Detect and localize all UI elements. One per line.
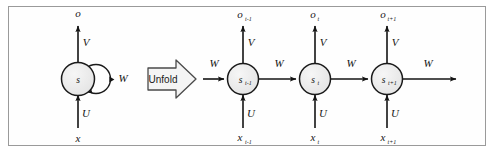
timestep-0-weight-u-label: U (247, 107, 256, 119)
timestep-1-input-subscript: t (318, 139, 320, 145)
timestep-0-state-node-subscript: t-1 (245, 80, 252, 86)
timestep-2-state-node (372, 64, 403, 95)
unfolded-incoming-weight-label: W (209, 57, 219, 69)
timestep-group-0: s t-1 o t-1 V U x t-1 W (228, 8, 297, 145)
timestep-0-state-node (228, 64, 259, 95)
timestep-2-weight-u-label: U (391, 107, 400, 119)
unfold-arrow-group: Unfold (148, 60, 196, 98)
folded-self-loop-tip (109, 76, 114, 82)
folded-rnn-group: s o V U x W (62, 7, 129, 144)
timestep-1-input-label: x (310, 131, 316, 143)
folded-output-label: o (75, 7, 81, 19)
timestep-0-output-label: o (237, 8, 243, 20)
timestep-0-weight-w-label: W (274, 57, 284, 69)
folded-weight-u-label: U (82, 107, 91, 119)
timestep-1-weight-v-label: V (320, 36, 328, 48)
folded-weight-v-label: V (83, 36, 91, 48)
timestep-1-weight-w-label: W (346, 57, 356, 69)
timestep-group-1: s t o t V U x t W (300, 8, 369, 145)
timestep-1-weight-u-label: U (319, 107, 328, 119)
timestep-2-state-node-subscript: t+1 (388, 80, 397, 86)
timestep-2-input-subscript: t+1 (388, 139, 397, 145)
folded-input-label: x (75, 132, 81, 144)
folded-weight-w-label: W (118, 72, 128, 84)
folded-state-node-label: s (76, 75, 80, 85)
timestep-group-2: s t+1 o t+1 V U x t+1 W (372, 8, 457, 145)
rnn-unfold-figure: s o V U x W Unfold W s t-1 o (0, 0, 500, 162)
timestep-2-input-label: x (380, 131, 386, 143)
timestep-2-output-label: o (380, 8, 386, 20)
unfold-label: Unfold (149, 74, 178, 85)
timestep-2-weight-w-label: W (423, 57, 433, 69)
timestep-1-output-subscript: t (318, 16, 320, 22)
timestep-1-state-node-label: s (311, 75, 315, 85)
timestep-2-weight-v-label: V (392, 36, 400, 48)
timestep-2-state-node-label: s (382, 75, 386, 85)
timestep-0-input-label: x (237, 131, 243, 143)
timestep-0-output-subscript: t-1 (245, 16, 252, 22)
timestep-1-output-label: o (310, 8, 316, 20)
timestep-0-weight-v-label: V (248, 36, 256, 48)
timestep-2-output-subscript: t+1 (388, 16, 397, 22)
diagram-canvas: s o V U x W Unfold W s t-1 o (0, 0, 500, 162)
timestep-1-state-node (300, 64, 331, 95)
timestep-0-state-node-label: s (239, 75, 243, 85)
unfolded-rnn-group: W s t-1 o t-1 V U x t-1 W (203, 8, 456, 145)
timestep-0-input-subscript: t-1 (245, 139, 252, 145)
